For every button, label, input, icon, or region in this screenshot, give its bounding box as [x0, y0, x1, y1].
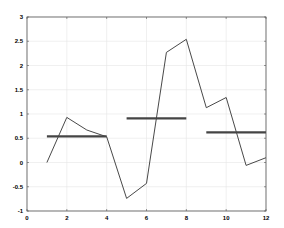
y-tick-label: -1: [18, 208, 24, 214]
y-tick-label: 3: [20, 14, 24, 20]
x-tick-label: 6: [145, 215, 149, 221]
x-tick-label: 0: [25, 215, 29, 221]
y-tick-label: 0.5: [15, 135, 24, 141]
y-tick-label: 2.5: [15, 38, 24, 44]
y-tick-label: 2: [20, 63, 24, 69]
y-tick-label: -0.5: [13, 184, 24, 190]
x-tick-label: 10: [223, 215, 230, 221]
y-tick-label: 1.5: [15, 87, 24, 93]
x-tick-label: 2: [65, 215, 69, 221]
x-tick-label: 12: [263, 215, 270, 221]
data-series: [47, 39, 266, 198]
y-tick-label: 1: [20, 111, 24, 117]
x-tick-label: 4: [105, 215, 109, 221]
y-tick-label: 0: [20, 160, 24, 166]
line-chart: 024681012 -1-0.500.511.522.53: [0, 0, 284, 228]
x-tick-label: 8: [185, 215, 189, 221]
x-axis-tick-labels: 024681012: [25, 215, 270, 221]
y-axis-tick-labels: -1-0.500.511.522.53: [13, 14, 24, 214]
